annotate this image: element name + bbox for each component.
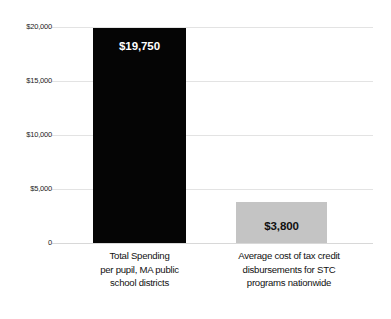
category-label-total-spending: Total Spending per pupil, MA public scho… (62, 249, 217, 290)
y-axis-tick-label-20000: $20,000 (4, 23, 52, 31)
bar-value-label-average-cost: $3,800 (236, 220, 327, 232)
gridline-baseline-zero (52, 243, 373, 244)
bar-value-label-total-spending: $19,750 (93, 40, 186, 52)
bar-chart: $20,000 $15,000 $10,000 $5,000 0 $19,750… (0, 0, 391, 319)
plot-area: $20,000 $15,000 $10,000 $5,000 0 $19,750… (0, 0, 391, 319)
y-axis-tick-label-10000: $10,000 (4, 131, 52, 139)
y-axis-tick-label-5000: $5,000 (4, 185, 52, 193)
y-axis-tick-label-15000: $15,000 (4, 77, 52, 85)
category-label-average-cost: Average cost of tax credit disbursements… (196, 249, 382, 290)
y-axis-tick-label-0: 0 (4, 239, 52, 247)
bar-total-spending-per-pupil: $19,750 (93, 28, 186, 243)
bar-average-cost-stc-disbursements: $3,800 (236, 202, 327, 243)
